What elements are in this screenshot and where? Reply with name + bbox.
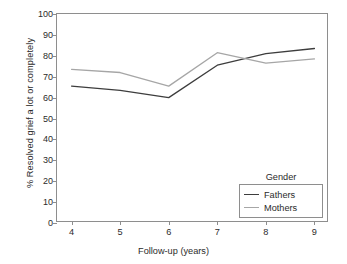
y-axis-tick-mark [53,77,57,78]
y-axis-tick-mark [53,14,57,15]
y-axis-tick-label: 100 [27,9,53,19]
y-axis-tick-mark [53,56,57,57]
legend-box: Fathers Mothers [239,184,323,218]
x-axis-tick-label: 9 [312,227,317,237]
x-axis-tick-label: 8 [263,227,268,237]
x-axis-title: Follow-up (years) [0,246,347,256]
line-series-fathers [72,48,315,97]
legend-item-mothers[interactable]: Mothers [244,201,317,214]
y-axis-tick-label: 20 [27,176,53,186]
x-axis-tick-mark [120,221,121,225]
y-axis-tick-label: 70 [27,72,53,82]
y-axis-tick-label: 30 [27,155,53,165]
x-axis-tick-label: 5 [118,227,123,237]
y-axis-tick-mark [53,223,57,224]
y-axis-tick-mark [53,98,57,99]
y-axis-tick-mark [53,181,57,182]
x-axis-tick-mark [217,221,218,225]
x-axis-tick-label: 6 [166,227,171,237]
legend-item-fathers[interactable]: Fathers [244,188,317,201]
legend-label-mothers: Mothers [264,203,297,213]
legend-swatch-mothers [244,207,259,208]
y-axis-tick-label: 50 [27,114,53,124]
legend: Gender Fathers Mothers [239,172,323,218]
x-axis-tick-mark [266,221,267,225]
x-axis-tick-label: 4 [69,227,74,237]
chart-figure: % Resolved grief a lot or completely Fol… [0,0,347,264]
y-axis-tick-mark [53,202,57,203]
x-axis-tick-mark [169,221,170,225]
y-axis-tick-mark [53,139,57,140]
legend-label-fathers: Fathers [264,190,295,200]
y-axis-tick-mark [53,160,57,161]
x-axis-tick-mark [72,221,73,225]
y-axis-tick-label: 60 [27,93,53,103]
y-axis-tick-label: 10 [27,197,53,207]
y-axis-tick-label: 90 [27,30,53,40]
x-axis-tick-mark [314,221,315,225]
y-axis-tick-label: 80 [27,51,53,61]
legend-title: Gender [239,172,323,182]
y-axis-tick-mark [53,119,57,120]
y-axis-tick-label: 0 [27,218,53,228]
legend-swatch-fathers [244,194,259,195]
y-axis-tick-label: 40 [27,134,53,144]
x-axis-tick-label: 7 [215,227,220,237]
y-axis-tick-mark [53,35,57,36]
